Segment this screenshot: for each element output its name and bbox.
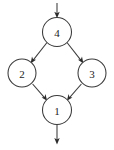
edge-4-to-3-shaft — [67, 43, 81, 61]
edge-4-to-2-shaft — [33, 43, 47, 61]
edge-3-to-1 — [67, 84, 82, 101]
directed-graph-figure: 4 2 3 1 — [0, 0, 114, 150]
edge-2-to-1 — [33, 84, 48, 101]
graph-node-3[interactable]: 3 — [78, 59, 106, 87]
exit-arrow — [54, 125, 59, 145]
graph-node-4[interactable]: 4 — [43, 18, 72, 47]
edge-4-to-3 — [67, 43, 83, 64]
node-3-label: 3 — [89, 68, 95, 80]
edge-3-to-1-shaft — [69, 84, 81, 98]
node-1-label: 1 — [54, 105, 60, 117]
entry-arrow — [54, 3, 59, 18]
node-2-label: 2 — [19, 68, 25, 80]
edge-2-to-1-shaft — [33, 84, 45, 98]
graph-canvas: 4 2 3 1 — [0, 0, 114, 150]
node-4-label: 4 — [54, 27, 60, 39]
graph-node-2[interactable]: 2 — [8, 59, 36, 87]
edge-4-to-2 — [31, 43, 47, 64]
graph-node-1[interactable]: 1 — [43, 96, 72, 125]
